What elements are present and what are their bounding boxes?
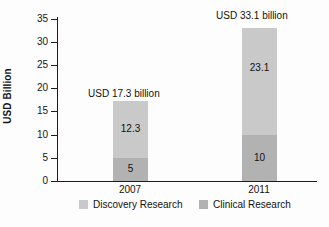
chart-legend: Discovery Research Clinical Research	[57, 197, 319, 211]
y-axis-title: USD Billion	[2, 56, 16, 136]
x-tick-label-2007: 2007	[90, 184, 170, 195]
y-tick-10: 10	[51, 135, 57, 136]
bar-value-discovery-2011: 23.1	[242, 62, 277, 73]
y-tick-30: 30	[51, 42, 57, 43]
y-axis-line	[57, 17, 58, 182]
x-tick-label-2011: 2011	[219, 184, 299, 195]
bar-total-label-2007: USD 17.3 billion	[88, 88, 160, 99]
bar-value-discovery-2007: 12.3	[113, 123, 148, 134]
y-tick-label-25: 25	[37, 59, 48, 70]
legend-entry-clinical-research[interactable]: Clinical Research	[199, 197, 291, 211]
y-tick-35: 35	[51, 19, 57, 20]
legend-label-discovery: Discovery Research	[93, 199, 182, 210]
y-tick-label-10: 10	[37, 129, 48, 140]
bar-value-clinical-2011: 10	[242, 152, 277, 163]
y-tick-label-0: 0	[42, 175, 48, 186]
legend-swatch-icon-clinical	[199, 200, 208, 209]
y-tick-label-30: 30	[37, 36, 48, 47]
bar-value-clinical-2007: 5	[113, 163, 148, 174]
y-tick-label-20: 20	[37, 82, 48, 93]
y-tick-5: 5	[51, 158, 57, 159]
y-tick-label-15: 15	[37, 105, 48, 116]
legend-entry-discovery-research[interactable]: Discovery Research	[79, 197, 182, 211]
legend-label-clinical: Clinical Research	[213, 199, 291, 210]
bar-total-label-2011: USD 33.1 billion	[216, 10, 288, 21]
bar-segment-discovery-2011[interactable]	[242, 28, 277, 135]
y-tick-25: 25	[51, 65, 57, 66]
y-tick-label-5: 5	[42, 152, 48, 163]
legend-swatch-icon-discovery	[79, 200, 88, 209]
y-tick-label-35: 35	[37, 13, 48, 24]
y-tick-20: 20	[51, 88, 57, 89]
y-tick-15: 15	[51, 111, 57, 112]
x-axis-line	[57, 181, 317, 182]
y-tick-0: 0	[51, 181, 57, 182]
stacked-bar-chart: USD Billion 35 30 25 20 15 10 5 0 12.3 5…	[0, 0, 329, 227]
